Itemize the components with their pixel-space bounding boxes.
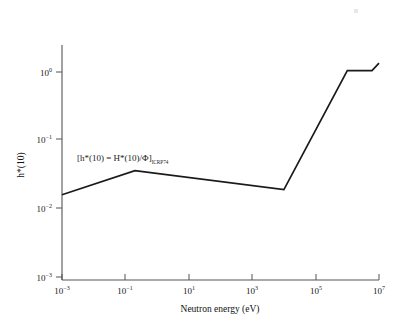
scan-artifact-speck	[354, 9, 358, 13]
chart-background	[0, 0, 399, 331]
y-axis-title: h*(10)	[16, 152, 27, 177]
chart-canvas: 100 10−1 10−2 10−3 h*(10) 10−3 10−1 101	[0, 0, 399, 331]
neutron-dose-conversion-chart: 100 10−1 10−2 10−3 h*(10) 10−3 10−1 101	[0, 0, 399, 331]
x-axis-title: Neutron energy (eV)	[181, 304, 260, 315]
